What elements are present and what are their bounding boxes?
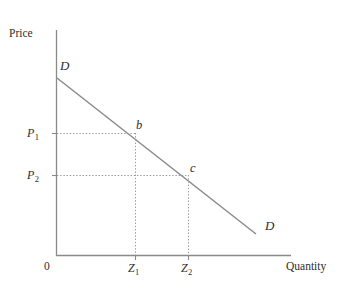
origin-label: 0 <box>44 261 50 273</box>
y-axis-label: Price <box>9 28 33 40</box>
demand-curve-figure: Price Quantity 0 D D b c P1 P2 Z1 Z2 <box>0 0 350 292</box>
price-tick-label-p1: P1 <box>27 127 39 139</box>
price-tick-base-p1: P <box>27 126 34 140</box>
chart-canvas <box>0 0 350 292</box>
quantity-tick-label-z2: Z2 <box>181 262 192 274</box>
demand-curve-label-lower: D <box>265 219 274 232</box>
point-label-c: c <box>190 162 196 175</box>
quantity-tick-base-z1: Z <box>128 261 135 275</box>
quantity-tick-label-z1: Z1 <box>128 262 139 274</box>
point-label-b: b <box>136 119 142 132</box>
price-tick-label-p2: P2 <box>27 169 39 181</box>
price-tick-sub-p1: 1 <box>35 132 39 142</box>
quantity-tick-base-z2: Z <box>181 261 188 275</box>
quantity-tick-sub-z2: 2 <box>188 267 192 277</box>
x-axis-label: Quantity <box>286 261 326 273</box>
price-tick-base-p2: P <box>27 168 34 182</box>
quantity-tick-sub-z1: 1 <box>135 267 139 277</box>
price-tick-sub-p2: 2 <box>35 174 39 184</box>
demand-curve-label-upper: D <box>60 59 69 72</box>
demand-curve-line <box>57 78 256 234</box>
